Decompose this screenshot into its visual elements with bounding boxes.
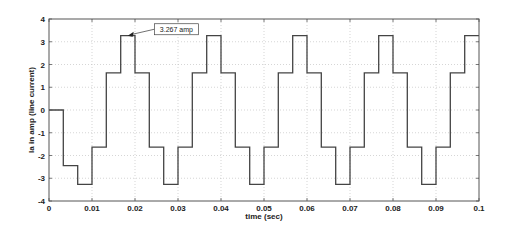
line-current-chart: 00.010.020.030.040.050.060.070.080.090.1…	[0, 0, 508, 231]
annotation-label: 3.267 amp	[160, 26, 193, 34]
y-tick-label: 0	[41, 106, 46, 115]
x-tick-label: 0.02	[127, 204, 143, 213]
y-axis-tick-labels: -4-3-2-101234	[38, 15, 46, 206]
y-tick-label: -1	[38, 129, 46, 138]
y-axis-label: Ia in amp (line current)	[27, 67, 36, 153]
y-tick-label: -4	[38, 197, 46, 206]
x-tick-label: 0.01	[84, 204, 100, 213]
x-tick-label: 0.1	[473, 204, 485, 213]
x-tick-label: 0.06	[299, 204, 315, 213]
y-tick-label: 1	[41, 83, 46, 92]
x-tick-label: 0.08	[385, 204, 401, 213]
y-tick-label: -3	[38, 174, 46, 183]
x-axis-label: time (sec)	[245, 212, 283, 221]
annotations: 3.267 amp	[128, 24, 199, 37]
x-tick-label: 0.03	[170, 204, 186, 213]
y-tick-label: 3	[41, 38, 46, 47]
x-tick-label: 0.04	[213, 204, 229, 213]
x-tick-label: 0	[47, 204, 52, 213]
y-tick-label: 2	[41, 61, 46, 70]
annotation-leader-line	[131, 29, 155, 34]
y-tick-label: 4	[41, 15, 46, 24]
y-tick-label: -2	[38, 152, 46, 161]
x-tick-label: 0.07	[342, 204, 358, 213]
x-tick-label: 0.09	[428, 204, 444, 213]
